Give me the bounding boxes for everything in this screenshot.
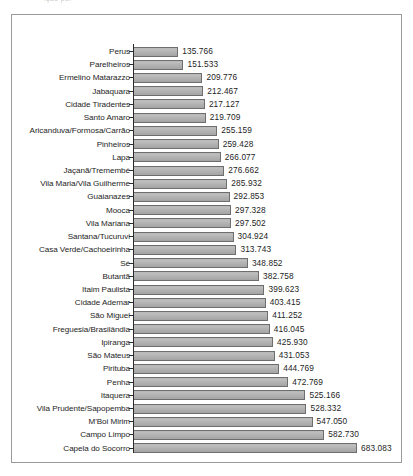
bar bbox=[134, 60, 183, 70]
bar-category-label: Freguesia/Brasilândia bbox=[53, 323, 130, 337]
bar-value-label: 348.852 bbox=[252, 257, 283, 271]
chart-frame: Perus135.766Parelheiros151.533Ermelino M… bbox=[11, 14, 402, 463]
bar bbox=[134, 179, 227, 189]
bar-value-label: 525.166 bbox=[309, 389, 340, 403]
bar-row: Vila Mariana297.502 bbox=[12, 217, 403, 231]
bar-row: Lapa266.077 bbox=[12, 151, 403, 165]
bar bbox=[134, 166, 224, 176]
bar-row: Parelheiros151.533 bbox=[12, 58, 403, 72]
bar-row: Freguesia/Brasilândia416.045 bbox=[12, 323, 403, 337]
bar bbox=[134, 47, 178, 57]
bar-category-label: Ipiranga bbox=[101, 336, 130, 350]
bar-row: Itaquera525.166 bbox=[12, 389, 403, 403]
bar-value-label: 431.053 bbox=[279, 349, 310, 363]
bar-row: Capela do Socorro683.083 bbox=[12, 442, 403, 456]
bar-value-label: 582.730 bbox=[328, 428, 359, 442]
bar-category-label: Penha bbox=[107, 376, 130, 390]
bar-value-label: 444.769 bbox=[283, 362, 314, 376]
bar-category-label: Jaçanã/Tremembé bbox=[64, 164, 130, 178]
bar-category-label: São Mateus bbox=[87, 349, 130, 363]
bar-category-label: Cidade Tiradentes bbox=[65, 98, 130, 112]
clipped-header-text-label: ição por bbox=[44, 0, 72, 2]
bar-category-label: Jabaquara bbox=[92, 85, 130, 99]
bar-value-label: 266.077 bbox=[225, 151, 256, 165]
bar-row: Pinheiros259.428 bbox=[12, 138, 403, 152]
bar-category-label: Lapa bbox=[112, 151, 130, 165]
bar bbox=[134, 311, 268, 321]
bar-row: Santana/Tucuruvi304.924 bbox=[12, 230, 403, 244]
bar-category-label: Mooca bbox=[106, 204, 130, 218]
bar-value-label: 425.930 bbox=[277, 336, 308, 350]
bar-category-label: Vila Mariana bbox=[86, 217, 130, 231]
bar-row: Aricanduva/Formosa/Carrão255.159 bbox=[12, 124, 403, 138]
bar-category-label: Cidade Ademar bbox=[75, 296, 130, 310]
bar-row: Mooca297.328 bbox=[12, 204, 403, 218]
bar-row: Sé348.852 bbox=[12, 257, 403, 271]
bar-value-label: 528.332 bbox=[310, 402, 341, 416]
bar-row: São Mateus431.053 bbox=[12, 349, 403, 363]
bar-value-label: 297.328 bbox=[235, 204, 266, 218]
bar-value-label: 297.502 bbox=[235, 217, 266, 231]
bar-value-label: 151.533 bbox=[187, 58, 218, 72]
bar bbox=[134, 258, 248, 268]
bar-chart-plot-area: Perus135.766Parelheiros151.533Ermelino M… bbox=[12, 15, 403, 464]
bar-value-label: 382.758 bbox=[263, 270, 294, 284]
bar-value-label: 313.743 bbox=[240, 243, 271, 257]
bar-row: Penha472.769 bbox=[12, 376, 403, 390]
bar-row: Vila Prudente/Sapopemba528.332 bbox=[12, 402, 403, 416]
bar bbox=[134, 152, 221, 162]
bar bbox=[134, 337, 273, 347]
bar bbox=[134, 218, 231, 228]
bar-category-label: Pinheiros bbox=[97, 138, 130, 152]
bar bbox=[134, 245, 236, 255]
bar-row: Perus135.766 bbox=[12, 45, 403, 59]
bar bbox=[134, 417, 313, 427]
bar-category-label: Pirituba bbox=[103, 362, 130, 376]
bar-value-label: 209.776 bbox=[206, 71, 237, 85]
bar bbox=[134, 192, 230, 202]
bar-category-label: São Miguel bbox=[90, 309, 130, 323]
bar-category-label: Guaianazes bbox=[87, 190, 130, 204]
bar-category-label: Casa Verde/Cachoeirinha bbox=[39, 243, 130, 257]
bar bbox=[134, 99, 205, 109]
bar-row: Casa Verde/Cachoeirinha313.743 bbox=[12, 243, 403, 257]
clipped-header-text: ição por bbox=[0, 0, 413, 7]
bar-value-label: 472.769 bbox=[292, 376, 323, 390]
bar-row: Ipiranga425.930 bbox=[12, 336, 403, 350]
bar bbox=[134, 139, 219, 149]
bar bbox=[134, 351, 275, 361]
bar-row: Jabaquara212.467 bbox=[12, 85, 403, 99]
bar-value-label: 399.623 bbox=[268, 283, 299, 297]
bar-row: Cidade Ademar403.415 bbox=[12, 296, 403, 310]
bar-category-label: Vila Maria/Vila Guilherme bbox=[40, 177, 130, 191]
bar bbox=[134, 232, 234, 242]
bar-value-label: 304.924 bbox=[238, 230, 269, 244]
bar-value-label: 259.428 bbox=[223, 138, 254, 152]
bar-value-label: 135.766 bbox=[182, 45, 213, 59]
bar-value-label: 219.709 bbox=[210, 111, 241, 125]
bar-row: Butantã382.758 bbox=[12, 270, 403, 284]
bar-category-label: Ermelino Matarazzo bbox=[59, 71, 130, 85]
bar-category-label: Perus bbox=[109, 45, 130, 59]
bar-value-label: 255.159 bbox=[221, 124, 252, 138]
bar bbox=[134, 73, 202, 83]
bar bbox=[134, 126, 217, 136]
bar-value-label: 403.415 bbox=[270, 296, 301, 310]
bar-row: Campo Limpo582.730 bbox=[12, 428, 403, 442]
bar-value-label: 547.050 bbox=[317, 415, 348, 429]
bar bbox=[134, 86, 203, 96]
bar-value-label: 411.252 bbox=[272, 309, 302, 323]
bar-category-label: Campo Limpo bbox=[80, 428, 130, 442]
bar bbox=[134, 205, 231, 215]
bar-value-label: 212.467 bbox=[207, 85, 238, 99]
bar bbox=[134, 298, 266, 308]
bar-row: Ermelino Matarazzo209.776 bbox=[12, 71, 403, 85]
bar-value-label: 292.853 bbox=[234, 190, 265, 204]
bar-row: Cidade Tiradentes217.127 bbox=[12, 98, 403, 112]
bar-row: M'Boi Mirim547.050 bbox=[12, 415, 403, 429]
bar bbox=[134, 404, 306, 414]
bar-value-label: 217.127 bbox=[209, 98, 240, 112]
bar bbox=[134, 377, 288, 387]
bar-row: Guaianazes292.853 bbox=[12, 190, 403, 204]
bar-category-label: Santana/Tucuruvi bbox=[68, 230, 130, 244]
